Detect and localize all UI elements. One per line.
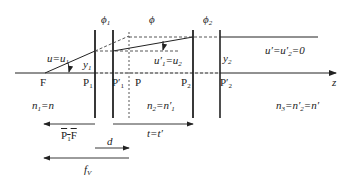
label-up-eq-u2p-eq-0: u′=u′2=0: [265, 45, 305, 58]
label-u-eq-u1: u=u1: [47, 53, 69, 66]
label-P1F: P1F: [61, 130, 77, 143]
label-P2-prime: P′2: [220, 77, 232, 90]
angle-u1p-arc: [163, 41, 164, 50]
label-phi2: ϕ2: [203, 14, 212, 27]
label-t: t=t′: [147, 128, 163, 139]
label-n3: n3=n′2=n′: [276, 100, 319, 113]
label-n2: n2=n′1: [147, 100, 175, 113]
ray-between: [113, 37, 193, 51]
label-d: d: [107, 136, 113, 147]
label-P1-prime: P′1: [112, 77, 124, 90]
label-phi: ϕ: [149, 14, 155, 25]
label-F: F: [40, 77, 46, 88]
label-P1: P1: [83, 77, 93, 90]
label-fv: fV: [84, 164, 91, 177]
label-n1: n1=n: [32, 100, 54, 113]
label-P2: P2: [181, 77, 191, 90]
label-z-axis: z: [332, 77, 336, 88]
label-P: P: [135, 77, 141, 88]
label-y2: y2: [223, 53, 231, 66]
label-y1: y1: [83, 59, 91, 72]
optical-diagram: [0, 0, 350, 182]
label-u1p-eq-u2: u′1=u2: [154, 55, 182, 68]
label-phi1: ϕ1: [101, 14, 110, 27]
